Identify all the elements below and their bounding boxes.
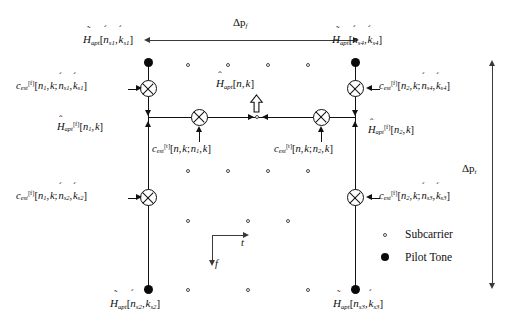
delta-pt-arrow-line [492,66,493,284]
multiplier-f-top-left [140,80,157,97]
delta-pf-subscript: f [246,22,248,29]
coefficient-arrowhead-f-bottom-left [136,194,142,200]
delta-pf-arrow-line [150,40,354,41]
coefficient-label-f-bottom-left: cest[f][n1, k; ́ns2, ́ks2] [16,190,87,202]
right-estimate-up-arrowhead [352,121,358,127]
coefficient-label-t-right: cest[t][n, k; n2, k] [274,143,333,155]
subcarrier-dot [226,169,230,173]
delta-pf-symbol: Δp [233,16,246,28]
legend-pilot-label: Pilot Tone [405,251,452,263]
pilot-label-s4: ̃Hapt[́ns4, ́ks4] [332,34,382,47]
axis-indicator-t-line [212,235,244,236]
figure-canvas: Δpf Δpt ̃Hapt[́ns1, ́ks1] cest[f][n1, k;… [0,0,515,320]
delta-pt-label: Δpt [462,163,476,176]
coefficient-label-f-bottom-right: cest[f][n2, k; ́ns3, ́ks3] [379,190,450,202]
subcarrier-dot [186,63,190,67]
left-pilot-column-line [148,66,149,290]
delta-pt-arrowhead-bottom [489,283,495,289]
coefficient-label-f-top-right: cest[f][n2, k; ́ns4, ́ks4] [379,80,450,92]
multiplier-f-bottom-left [140,189,157,206]
subcarrier-dot [186,288,190,292]
pilot-label-s2: ̃Hapt[́ns2, ́ks2] [110,298,160,311]
subcarrier-dot [226,63,230,67]
estimate-label-centre: ̂Hapt[n, k] [216,78,254,91]
legend-subcarrier-label: Subcarrier [405,228,453,240]
subcarrier-dot [306,288,310,292]
subcarrier-dot [306,169,310,173]
coefficient-arrow-t-right [321,131,322,142]
pilot-label-s3: ̃Hapt[́ns3, ́ks3] [333,298,383,311]
subcarrier-dot [246,219,250,223]
coefficient-label-t-left: cest[t][n, k; n1, k] [152,143,211,155]
coefficient-arrow-t-left [199,131,200,142]
subcarrier-dot [266,63,270,67]
multiplier-f-bottom-right [347,189,364,206]
axis-indicator-f-arrowhead [209,260,215,266]
pilot-label-s1: ̃Hapt[́ns1, ́ks1] [83,34,133,47]
left-estimate-up-arrowhead [145,121,151,127]
coefficient-arrowhead-t-right [318,126,324,132]
axis-label-t: t [241,237,244,248]
subcarrier-dot [306,63,310,67]
subcarrier-dot [186,169,190,173]
legend-pilot-marker [381,253,389,261]
multiplier-f-top-right [347,80,364,97]
pilot-tone-s1 [144,58,153,67]
subcarrier-dot [286,219,290,223]
estimate-label-right: ̂Hapt[f][n2, k] [368,124,414,136]
right-pilot-column-line [355,66,356,290]
delta-pf-label: Δpf [233,17,247,30]
coefficient-label-f-top-left: cest[f][n1, k; ́ns1, ́ks1] [16,80,87,92]
subcarrier-dot [266,169,270,173]
estimate-label-left: ̂Hapt[f][n1, k] [57,121,103,133]
subcarrier-dot [186,219,190,223]
left-branch-down-arrowhead [145,110,151,116]
subcarrier-dot [246,288,250,292]
coefficient-arrowhead-f-top-left [136,85,142,91]
axis-label-f: f [215,258,218,269]
centre-estimate-pointer-icon [249,94,264,117]
delta-pt-arrowhead-top [489,60,495,66]
pilot-tone-s3 [351,285,360,294]
delta-pt-symbol: Δp [462,162,475,174]
multiplier-t-right [313,109,330,126]
pilot-tone-s2 [144,285,153,294]
legend-subcarrier-marker [383,233,387,237]
coefficient-arrowhead-t-left [196,126,202,132]
pilot-tone-s4 [351,58,360,67]
right-branch-down-arrowhead [352,110,358,116]
axis-indicator-f-line [212,235,213,261]
multiplier-t-left [191,109,208,126]
delta-pf-arrowhead-left [144,37,150,43]
delta-pt-subscript: t [475,168,477,175]
